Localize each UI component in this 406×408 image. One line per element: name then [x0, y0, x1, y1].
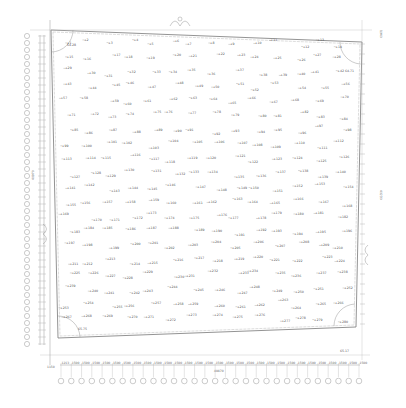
- spot-elevation: +100: [82, 144, 92, 148]
- spot-label: +232: [209, 269, 218, 273]
- grid-bubble: [24, 208, 29, 213]
- spot-label: +275: [234, 315, 243, 319]
- spot-label: +128: [92, 171, 101, 175]
- spot-elevation: +102: [122, 141, 132, 145]
- grid-bubble: [24, 187, 29, 192]
- spot-elevation: +71: [67, 113, 75, 117]
- grid-bubble: [24, 33, 29, 38]
- spot-elevation: +189: [194, 228, 204, 232]
- spot-label: +127: [71, 175, 80, 179]
- spot-label: +216: [174, 258, 183, 262]
- bottom-dimension-value: 1500: [298, 361, 306, 365]
- spot-label: +39: [280, 73, 287, 77]
- spot-elevation: +44: [88, 86, 96, 90]
- spot-elevation: +83: [316, 115, 324, 119]
- spot-label: +140: [337, 170, 346, 174]
- grid-bubble: [24, 40, 29, 45]
- spot-elevation: +276: [255, 313, 265, 317]
- spot-label: +63: [190, 96, 197, 100]
- spot-label: +243: [144, 289, 153, 293]
- spot-label: +228: [124, 276, 133, 280]
- spot-elevation: +23: [237, 53, 245, 57]
- grid-bubble: [24, 250, 29, 255]
- spot-label: +125: [318, 159, 327, 163]
- spot-label: +132: [177, 172, 186, 176]
- spot-label: +32: [129, 70, 136, 74]
- spot-elevation: +217: [194, 256, 204, 260]
- spot-label: +73: [110, 115, 117, 119]
- spot-elevation: +211: [68, 262, 78, 266]
- spot-elevation: +200: [130, 242, 140, 246]
- spot-label: +91: [187, 128, 194, 132]
- bottom-dimension-value: 1500: [144, 361, 152, 365]
- grid-bubble: [24, 222, 29, 227]
- spot-elevation: +125: [316, 159, 326, 163]
- spot-label: +190: [213, 229, 222, 233]
- spot-elevation: +203: [188, 243, 198, 247]
- spot-label: +67: [271, 100, 278, 104]
- spot-label: +35: [189, 68, 196, 72]
- spot-label: +145: [149, 187, 158, 191]
- spot-label: +99: [62, 144, 69, 148]
- spot-elevation: +175: [189, 216, 199, 220]
- spot-label: +223: [324, 255, 333, 259]
- spot-label: +204: [212, 240, 221, 244]
- spot-label: +278: [297, 316, 306, 320]
- spot-label: +161: [194, 201, 203, 205]
- spot-label: +65: [230, 101, 237, 105]
- spot-elevation: +103: [149, 146, 159, 150]
- spot-label: +146: [167, 183, 176, 187]
- spot-label: +40: [299, 72, 306, 76]
- spot-label: +162: [208, 200, 217, 204]
- spot-elevation: +162: [207, 200, 217, 204]
- spot-label: +130: [126, 168, 135, 172]
- spot-elevation: +197: [64, 241, 74, 245]
- spot-elevation: +57: [59, 96, 67, 100]
- grid-bubble: [24, 334, 29, 339]
- spot-label: +100: [83, 144, 92, 148]
- spot-elevation: +104: [168, 139, 178, 143]
- spot-elevation: +213: [105, 257, 115, 261]
- spot-elevation: +210: [333, 246, 343, 250]
- spot-label: +120: [207, 156, 216, 160]
- spot-elevation: +182: [338, 215, 348, 219]
- spot-label: +164: [249, 200, 258, 204]
- spot-label: +255: [114, 305, 123, 309]
- grid-bubble: [264, 378, 270, 384]
- bottom-dimension-value: 1500: [82, 361, 90, 365]
- spot-elevation: +221: [270, 258, 280, 262]
- spot-label: +8: [210, 41, 215, 45]
- spot-label: +129: [107, 174, 116, 178]
- spot-label: +124: [294, 156, 303, 160]
- grid-bubble: [182, 378, 188, 384]
- spot-label: +181: [315, 211, 324, 215]
- spot-label: +221: [271, 258, 280, 262]
- spot-label: +23: [239, 53, 246, 57]
- spot-elevation: +33: [153, 70, 161, 74]
- spot-label: +233: [240, 271, 249, 275]
- spot-label: +44: [90, 86, 97, 90]
- spot-label: +113: [63, 157, 72, 161]
- spot-elevation: +31: [104, 74, 112, 78]
- spot-elevation: +98: [343, 128, 351, 132]
- grid-bubble: [274, 378, 280, 384]
- grid-bubble: [24, 138, 29, 143]
- section-marker-left: [43, 224, 47, 244]
- spot-elevation: +27: [313, 53, 321, 57]
- bottom-dimension-value: 1500: [288, 361, 296, 365]
- spot-elevation: +248: [250, 285, 260, 289]
- spot-elevation: +242: [129, 291, 139, 295]
- spot-label: +42: [337, 69, 344, 73]
- spot-elevation: +216: [173, 258, 183, 262]
- spot-label: +37: [237, 68, 244, 72]
- grid-bubble: [24, 313, 29, 318]
- spot-label: +13: [317, 38, 324, 42]
- spot-label: +215: [149, 261, 158, 265]
- spot-label: +25: [275, 56, 282, 60]
- spot-elevation: +90: [173, 129, 181, 133]
- spot-elevation: +249: [272, 289, 282, 293]
- spot-elevation: +75: [153, 110, 161, 114]
- spot-label: +207: [277, 244, 286, 248]
- spot-elevation: +70: [341, 95, 349, 99]
- spot-elevation: +55: [321, 86, 329, 90]
